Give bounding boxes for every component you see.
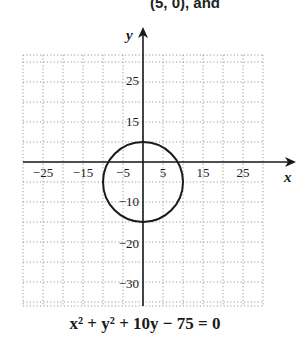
y-tick-label: −30 — [119, 276, 139, 291]
x-tick-label: 15 — [197, 165, 210, 180]
x-tick-label: −15 — [73, 165, 93, 180]
x-tick-label: 25 — [237, 165, 250, 180]
y-tick-label: 25 — [126, 73, 139, 88]
y-axis-label: y — [124, 27, 133, 43]
equation-caption: x² + y² + 10y − 75 = 0 — [0, 314, 290, 334]
chart-plot-area: x y −25−15−551525 2515−10−20−30 — [0, 0, 304, 340]
x-axis-label: x — [283, 169, 292, 185]
x-tick-label: −5 — [116, 165, 130, 180]
y-tick-label: 15 — [126, 114, 139, 129]
x-tick-labels: −25−15−551525 — [33, 165, 250, 180]
x-tick-label: −25 — [33, 165, 53, 180]
x-tick-label: 5 — [160, 165, 167, 180]
y-tick-label: −10 — [119, 194, 139, 209]
y-tick-label: −20 — [119, 236, 139, 251]
